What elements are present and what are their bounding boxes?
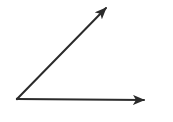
inclined-ray: [17, 8, 106, 99]
angle-diagram: [0, 0, 173, 122]
angle-svg: [0, 0, 173, 122]
horizontal-ray: [17, 99, 144, 100]
vertex-point: [16, 98, 18, 100]
